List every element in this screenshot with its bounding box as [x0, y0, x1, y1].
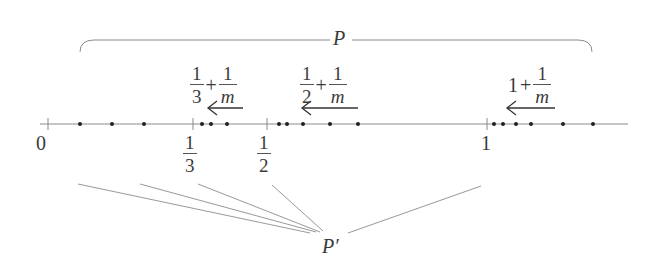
plus-sign: +: [518, 74, 533, 97]
point: [492, 122, 496, 126]
point: [501, 122, 505, 126]
left-arrows: [208, 101, 555, 115]
point: [356, 122, 360, 126]
annotation-one-half-plus-one-over-m: 1 2 + 1 m: [300, 64, 347, 106]
annotation-one-plus-one-over-m: 1 + 1 m: [508, 64, 551, 106]
point: [225, 122, 229, 126]
point: [78, 122, 82, 126]
point: [561, 122, 565, 126]
tick-label-0: 0: [36, 133, 46, 153]
point: [277, 122, 281, 126]
tick-label-one-half: 1 2: [257, 133, 271, 175]
point: [209, 122, 213, 126]
point: [591, 122, 595, 126]
annotation-one-third-plus-one-over-m: 1 3 + 1 m: [190, 64, 237, 106]
point: [514, 122, 518, 126]
fraction: 1 3: [190, 64, 204, 106]
fraction: 1 2: [300, 64, 314, 106]
projection-lines: [78, 184, 481, 233]
point: [110, 122, 114, 126]
fraction: 1 m: [219, 64, 237, 106]
one: 1: [508, 74, 518, 97]
set-p-label: P: [333, 28, 345, 48]
plus-sign: +: [314, 74, 329, 97]
point: [285, 122, 289, 126]
tick-label-1: 1: [481, 133, 491, 153]
point: [200, 122, 204, 126]
fraction: 1 m: [533, 64, 551, 106]
diagram-canvas: [0, 0, 657, 274]
point: [301, 122, 305, 126]
fraction: 1 m: [329, 64, 347, 106]
set-p-prime-label: P′: [322, 236, 339, 256]
point: [142, 122, 146, 126]
plus-sign: +: [204, 74, 219, 97]
tick-label-one-third: 1 3: [183, 133, 197, 175]
point: [328, 122, 332, 126]
point: [529, 122, 533, 126]
